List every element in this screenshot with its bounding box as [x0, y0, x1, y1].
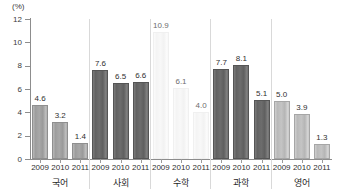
bar-shape	[233, 65, 249, 160]
group-name-label: 과학	[233, 179, 249, 188]
x-axis-year-label: 2011	[193, 164, 210, 172]
x-axis-year-label: 2009	[273, 164, 291, 172]
x-axis-year-label: 2009	[152, 164, 170, 172]
x-axis-year-label: 2011	[132, 164, 149, 172]
bar-value-label: 3.2	[55, 112, 66, 120]
bar-value-label: 5.1	[256, 90, 267, 98]
y-axis-tick: 0	[25, 159, 30, 160]
bar-value-label: 7.7	[216, 59, 227, 67]
bar-chart: (%) 024681012 4.63.21.47.66.56.610.96.14…	[0, 0, 338, 194]
x-axis-year-label: 2010	[293, 164, 311, 172]
bar-value-label: 5.0	[276, 91, 287, 99]
y-axis-tick-label: 12	[13, 16, 22, 24]
bar-value-label: 6.6	[135, 72, 146, 80]
x-axis-year-label: 2010	[172, 164, 190, 172]
y-axis-unit-label: (%)	[12, 2, 24, 11]
bar-shape	[72, 143, 88, 159]
y-axis-tick-label: 8	[18, 62, 22, 70]
bar-shape	[254, 100, 270, 160]
bar-value-label: 1.4	[75, 133, 86, 141]
bar-value-label: 6.5	[115, 73, 126, 81]
bar-shape	[294, 114, 310, 160]
group-name-label: 국어	[52, 179, 68, 188]
plot-area: 4.63.21.47.66.56.610.96.14.07.78.15.15.0…	[30, 19, 332, 159]
bar-shape	[92, 70, 108, 159]
bar-shape	[153, 32, 169, 159]
x-axis-year-label: 2010	[112, 164, 130, 172]
bar-value-label: 1.3	[316, 134, 327, 142]
bar-국어-2009: 4.6	[32, 105, 48, 159]
y-axis-tick-label: 4	[18, 109, 22, 117]
bar-국어-2010: 3.2	[52, 122, 68, 159]
y-axis-tick-label: 2	[18, 132, 22, 140]
bar-사회-2009: 7.6	[92, 70, 108, 159]
bar-value-label: 4.6	[35, 95, 46, 103]
bar-value-label: 3.9	[296, 104, 307, 112]
bar-shape	[274, 101, 290, 159]
bar-과학-2011: 5.1	[254, 100, 270, 160]
group-name-label: 영어	[294, 179, 310, 188]
bar-value-label: 4.0	[196, 102, 207, 110]
bar-수학-2011: 4.0	[193, 112, 209, 159]
bar-value-label: 6.1	[175, 78, 186, 86]
x-axis-year-label: 2011	[313, 164, 330, 172]
bar-shape	[52, 122, 68, 159]
bar-수학-2010: 6.1	[173, 88, 189, 159]
y-axis-tick-label: 10	[13, 39, 22, 47]
bar-value-label: 8.1	[236, 55, 247, 63]
x-axis-year-label: 2010	[232, 164, 250, 172]
bar-사회-2011: 6.6	[133, 82, 149, 159]
y-axis-tick-label: 6	[18, 86, 22, 94]
bar-국어-2011: 1.4	[72, 143, 88, 159]
bar-영어-2009: 5.0	[274, 101, 290, 159]
bar-과학-2009: 7.7	[213, 69, 229, 159]
bar-shape	[113, 83, 129, 159]
bar-사회-2010: 6.5	[113, 83, 129, 159]
bar-영어-2010: 3.9	[294, 114, 310, 160]
bar-shape	[133, 82, 149, 159]
bar-shape	[32, 105, 48, 159]
bar-value-label: 10.9	[153, 22, 169, 30]
group-name-label: 수학	[173, 179, 189, 188]
bar-수학-2009: 10.9	[153, 32, 169, 159]
y-axis-tick-label: 0	[18, 156, 22, 164]
x-axis-year-label: 2009	[212, 164, 230, 172]
bar-shape	[193, 112, 209, 159]
bar-shape	[213, 69, 229, 159]
x-axis-year-label: 2011	[253, 164, 270, 172]
group-name-label: 사회	[113, 179, 129, 188]
bar-과학-2010: 8.1	[233, 65, 249, 160]
x-axis-year-label: 2009	[31, 164, 49, 172]
x-axis-year-label: 2009	[92, 164, 110, 172]
bar-value-label: 7.6	[95, 60, 106, 68]
bar-shape	[173, 88, 189, 159]
x-axis-year-label: 2010	[51, 164, 69, 172]
x-axis-year-label: 2011	[72, 164, 89, 172]
bar-영어-2011: 1.3	[314, 144, 330, 159]
bar-shape	[314, 144, 330, 159]
